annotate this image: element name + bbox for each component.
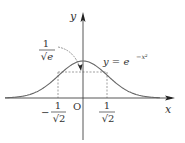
tick-pos-denominator: √2 <box>102 113 115 124</box>
tick-neg-numerator: 1 <box>55 100 61 111</box>
annotation-numerator: 1 <box>43 38 49 49</box>
dashed-guides <box>58 72 107 98</box>
tick-neg-inv-sqrt2: − 1 √2 <box>41 100 66 124</box>
origin-label: O <box>73 101 81 112</box>
annotation-denominator: √e <box>41 51 53 62</box>
gaussian-curve <box>5 61 160 98</box>
tick-pos-numerator: 1 <box>104 100 110 111</box>
gaussian-diagram: y x O 1 √e y = e −x² − 1 √2 1 √2 <box>0 0 185 143</box>
equation-exponent: −x² <box>136 53 148 61</box>
y-axis-label: y <box>69 10 77 23</box>
annotation-pointer <box>58 47 80 68</box>
annotation-fraction: 1 √e <box>39 38 55 62</box>
tick-pos-inv-sqrt2: 1 √2 <box>99 100 115 124</box>
equation-main: y = e <box>102 56 129 67</box>
equation-label: y = e −x² <box>102 53 148 67</box>
x-axis-label: x <box>165 103 172 116</box>
annotation-arrow-icon <box>78 64 83 71</box>
tick-neg-denominator: √2 <box>53 113 66 124</box>
tick-neg-sign: − <box>41 107 49 118</box>
